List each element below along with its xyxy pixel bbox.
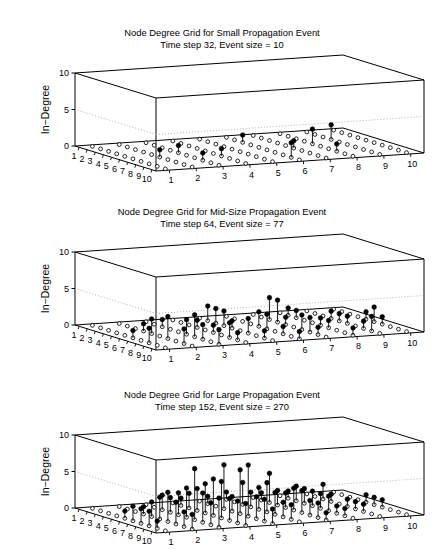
node-marker-open — [99, 147, 103, 151]
x-tick-label: 8 — [128, 169, 133, 179]
node-marker-filled — [157, 495, 162, 500]
node-marker-filled — [259, 490, 264, 495]
node-marker-open — [271, 339, 275, 343]
node-marker-filled — [334, 142, 339, 147]
y-tick-label: 6 — [302, 345, 307, 355]
node-marker-filled — [310, 489, 315, 494]
node-marker-open — [107, 511, 111, 515]
node-marker-filled — [166, 314, 171, 319]
stem — [157, 495, 162, 519]
x-tick-label: 2 — [79, 333, 84, 343]
node-marker-filled — [326, 318, 331, 323]
x-tick-mark — [111, 519, 112, 522]
node-marker-open — [305, 130, 309, 134]
node-marker-open — [297, 158, 301, 162]
node-marker-open — [134, 148, 138, 152]
node-marker-open — [123, 333, 127, 337]
node-marker-open — [397, 148, 401, 152]
y-tick-label: 6 — [302, 166, 307, 176]
node-marker-filled — [324, 510, 329, 515]
node-marker-open — [230, 147, 234, 151]
node-marker-filled — [273, 490, 278, 495]
stem — [235, 499, 240, 523]
node-marker-filled — [222, 463, 227, 468]
node-marker-open — [125, 145, 129, 149]
node-marker-open — [254, 155, 258, 159]
node-marker-open — [335, 328, 339, 332]
node-marker-open — [163, 346, 167, 350]
node-marker-open — [238, 150, 242, 154]
stem — [222, 463, 227, 509]
x-tick-mark — [78, 326, 79, 329]
z-tick-label: 10 — [59, 247, 69, 257]
node-marker-open — [257, 145, 261, 149]
node-marker-open — [185, 153, 189, 157]
node-marker-open — [281, 153, 285, 157]
node-marker-open — [115, 514, 119, 518]
stem — [275, 298, 280, 322]
node-marker-open — [115, 152, 119, 156]
node-marker-open — [278, 132, 282, 136]
node-marker-open — [217, 163, 221, 167]
x-tick-mark — [94, 331, 95, 334]
node-marker-open — [249, 322, 253, 326]
node-marker-filled — [308, 498, 313, 503]
node-marker-open — [305, 492, 309, 496]
stem — [265, 480, 270, 512]
node-marker-filled — [149, 317, 154, 322]
node-marker-filled — [369, 314, 374, 319]
node-marker-open — [378, 515, 382, 519]
node-marker-open — [340, 493, 344, 497]
node-marker-filled — [283, 315, 288, 320]
z-tick-label: 5 — [64, 467, 69, 477]
node-marker-filled — [211, 323, 216, 328]
node-marker-open — [388, 325, 392, 329]
node-marker-filled — [224, 490, 229, 495]
node-marker-open — [174, 160, 178, 164]
node-marker-open — [278, 311, 282, 315]
node-marker-open — [139, 159, 143, 163]
stem — [200, 491, 205, 523]
z-tick-label: 10 — [59, 68, 69, 78]
node-marker-open — [397, 510, 401, 514]
node-marker-open — [345, 143, 349, 147]
y-tick-label: 10 — [407, 521, 417, 531]
node-marker-open — [150, 153, 154, 157]
stem3-plot: 0510In−Degree1234567891012345678910 — [0, 219, 444, 381]
node-marker-filled — [200, 491, 205, 496]
node-marker-filled — [300, 313, 305, 318]
node-marker-open — [263, 157, 267, 161]
node-marker-open — [313, 133, 317, 137]
node-marker-open — [152, 143, 156, 147]
node-marker-filled — [157, 147, 162, 152]
y-tick-label: 7 — [329, 343, 334, 353]
node-marker-open — [168, 148, 172, 152]
stem — [166, 314, 171, 338]
node-marker-filled — [192, 466, 197, 471]
x-tick-mark — [135, 165, 136, 168]
axis-ticks: 0510In−Degree1234567891012345678910 — [39, 247, 417, 364]
x-tick-label: 7 — [120, 166, 125, 176]
node-marker-filled — [222, 309, 227, 314]
node-marker-filled — [235, 499, 240, 504]
node-marker-open — [163, 529, 167, 533]
node-marker-filled — [321, 482, 326, 487]
node-marker-filled — [147, 509, 152, 514]
node-marker-filled — [203, 481, 208, 486]
node-marker-open — [397, 327, 401, 331]
axis-ticks: 0510In−Degree1234567891012345678910 — [39, 68, 417, 185]
node-marker-filled — [227, 496, 232, 501]
node-marker-filled — [300, 488, 305, 493]
stem — [243, 501, 248, 525]
stem — [192, 313, 197, 337]
x-tick-mark — [119, 339, 120, 342]
node-marker-filled — [176, 491, 181, 496]
y-tick-label: 5 — [276, 530, 281, 540]
y-tick-label: 8 — [356, 341, 361, 351]
x-tick-label: 10 — [142, 174, 152, 184]
node-marker-open — [244, 162, 248, 166]
x-tick-mark — [111, 336, 112, 339]
node-marker-filled — [254, 494, 259, 499]
node-marker-open — [107, 149, 111, 153]
x-tick-mark — [143, 346, 144, 349]
